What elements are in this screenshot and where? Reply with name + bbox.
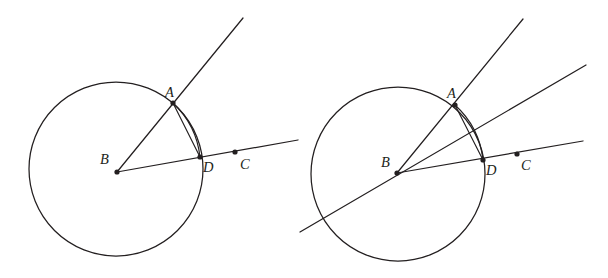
- point-d-label: D: [202, 159, 214, 175]
- geometry-figure: A B C D A B C D: [0, 0, 608, 278]
- point-a-label: A: [446, 85, 456, 101]
- geometry-canvas: A B C D A B C D: [0, 0, 608, 278]
- point-b-dot: [394, 170, 399, 175]
- point-d-dot: [197, 154, 202, 159]
- point-b-label: B: [381, 154, 390, 170]
- point-c-label: C: [521, 157, 531, 173]
- point-a-label: A: [164, 84, 174, 100]
- point-a-dot: [170, 100, 175, 105]
- point-a-dot: [452, 102, 457, 107]
- point-c-dot: [514, 151, 519, 156]
- circle-left: [29, 82, 203, 256]
- point-c-dot: [232, 149, 237, 154]
- ray-b-through-a: [117, 18, 243, 172]
- ray-b-through-a: [397, 19, 523, 173]
- point-d-label: D: [485, 162, 497, 178]
- left-diagram: A B C D: [29, 18, 298, 256]
- right-diagram: A B C D: [300, 19, 586, 261]
- line-through-b-angle-bisector: [300, 65, 586, 232]
- point-c-label: C: [240, 156, 250, 172]
- point-b-label: B: [100, 151, 109, 167]
- point-d-dot: [480, 157, 485, 162]
- chord-a-d: [173, 103, 200, 157]
- point-b-dot: [114, 169, 119, 174]
- chord-a-d: [455, 105, 483, 160]
